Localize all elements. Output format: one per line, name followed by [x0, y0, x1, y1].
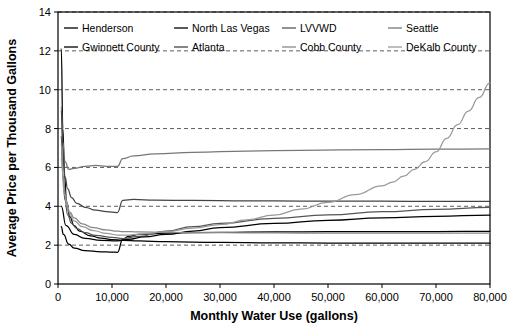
chart-container: 02468101214010,00020,00030,00040,00050,0… — [0, 0, 507, 329]
legend-label-dekalb-county: DeKalb County — [406, 41, 477, 53]
y-tick-label: 12 — [39, 45, 51, 57]
y-tick-label: 6 — [45, 161, 51, 173]
y-tick-label: 0 — [45, 278, 51, 290]
legend-label-gwinnett-county: Gwinnett County — [82, 41, 160, 53]
x-axis-title: Monthly Water Use (gallons) — [190, 309, 358, 323]
series-line-gwinnett-county — [61, 206, 490, 241]
x-tick-label: 50,000 — [311, 291, 345, 303]
legend-label-lvvwd: LVVWD — [300, 22, 337, 34]
y-tick-label: 14 — [39, 6, 51, 18]
x-tick-label: 60,000 — [365, 291, 399, 303]
series-line-dekalb-county — [61, 83, 490, 235]
line-chart: 02468101214010,00020,00030,00040,00050,0… — [0, 0, 507, 329]
x-tick-label: 70,000 — [419, 291, 453, 303]
y-tick-label: 8 — [45, 123, 51, 135]
y-tick-label: 4 — [45, 200, 51, 212]
x-tick-label: 80,000 — [473, 291, 507, 303]
series-line-seattle — [61, 107, 490, 169]
series-line-north-las-vegas — [61, 49, 490, 243]
legend-label-seattle: Seattle — [406, 22, 439, 34]
x-tick-label: 0 — [55, 291, 61, 303]
series-line-cobb-county — [61, 144, 490, 233]
legend: HendersonNorth Las VegasLVVWDSeattleGwin… — [64, 22, 477, 53]
legend-label-cobb-county: Cobb County — [300, 41, 362, 53]
x-tick-label: 30,000 — [203, 291, 237, 303]
y-tick-label: 10 — [39, 84, 51, 96]
x-tick-label: 40,000 — [257, 291, 291, 303]
x-tick-label: 20,000 — [149, 291, 183, 303]
legend-label-north-las-vegas: North Las Vegas — [192, 22, 270, 34]
legend-label-atlanta: Atlanta — [192, 41, 225, 53]
legend-label-henderson: Henderson — [82, 22, 134, 34]
series-group — [61, 49, 490, 252]
y-tick-label: 2 — [45, 239, 51, 251]
x-tick-label: 10,000 — [95, 291, 129, 303]
y-axis-title: Average Price per Thousand Gallons — [5, 39, 19, 257]
